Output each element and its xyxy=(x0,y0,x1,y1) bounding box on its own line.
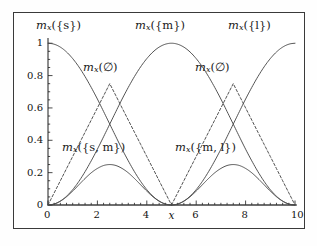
x-axis-label: x xyxy=(169,209,175,221)
x-tick-label: 6 xyxy=(192,209,198,220)
y-tick-label: 0.6 xyxy=(15,102,43,113)
x-tick-label: 8 xyxy=(242,209,248,220)
x-tick-label: 10 xyxy=(291,209,304,220)
curve-label-sm: mx({s, m}) xyxy=(62,140,125,154)
curve-label-empty-right: mx(∅) xyxy=(195,60,229,74)
figure-root: mx({s}) mx({m}) mx({l}) mx(∅) mx(∅) mx({… xyxy=(0,0,317,246)
curve-label-l: mx({l}) xyxy=(228,18,271,32)
curve-label-s: mx({s}) xyxy=(36,18,81,32)
y-tick-label: 1 xyxy=(15,37,43,48)
curve-label-ml: mx({m, l}) xyxy=(175,140,236,154)
y-tick-label: 0 xyxy=(15,199,43,210)
curve-m-x-s-m xyxy=(48,165,172,205)
curve-label-empty-left: mx(∅) xyxy=(83,60,117,74)
x-tick-label: 4 xyxy=(143,209,149,220)
x-tick-label: 2 xyxy=(93,209,99,220)
curve-label-m: mx({m}) xyxy=(135,18,185,32)
y-tick-label: 0.2 xyxy=(15,167,43,178)
y-tick-label: 0.4 xyxy=(15,134,43,145)
curve-m-x-m-l xyxy=(172,165,296,205)
x-tick-label: 0 xyxy=(44,209,50,220)
y-tick-label: 0.8 xyxy=(15,70,43,81)
